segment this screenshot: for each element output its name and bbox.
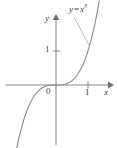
y-axis-tick-label-one: 1 <box>45 45 50 54</box>
y-axis-label: y <box>45 14 49 23</box>
x-axis-tick-label-one: 1 <box>85 88 90 97</box>
cubic-curve <box>14 1 99 148</box>
x-axis-label: x <box>104 88 108 97</box>
origin-label: 0 <box>46 87 51 96</box>
plot-canvas <box>0 0 117 148</box>
curve-equation-label: y=x3 <box>69 3 87 14</box>
y-axis-arrowhead <box>53 14 60 20</box>
x-axis-arrowhead <box>108 82 114 89</box>
function-graph-figure: x y 0 1 1 y=x3 <box>0 0 117 148</box>
equation-leader-line <box>74 17 90 47</box>
equation-exponent: 3 <box>84 3 87 9</box>
